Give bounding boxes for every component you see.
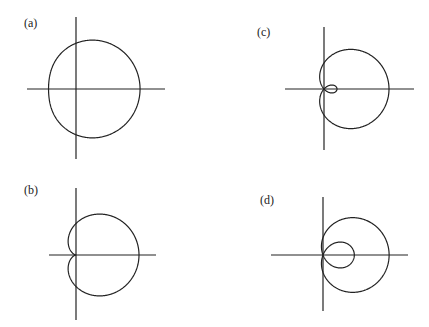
panel-d (271, 197, 408, 311)
panel-label-d: (d) (260, 193, 274, 208)
panel-c (285, 27, 414, 150)
panel-label-b: (b) (24, 183, 38, 198)
panel-label-a: (a) (24, 16, 37, 31)
figure-canvas (0, 0, 429, 327)
panel-label-c: (c) (257, 25, 270, 40)
panel-a (27, 17, 165, 159)
panel-b (49, 188, 156, 320)
